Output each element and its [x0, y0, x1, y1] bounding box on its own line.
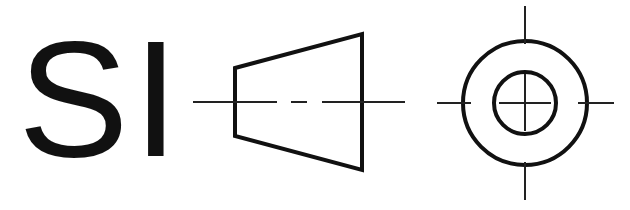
projection-symbol-canvas: SI	[0, 0, 630, 210]
side-view-crosshair	[437, 6, 614, 200]
projection-diagram	[0, 0, 630, 210]
